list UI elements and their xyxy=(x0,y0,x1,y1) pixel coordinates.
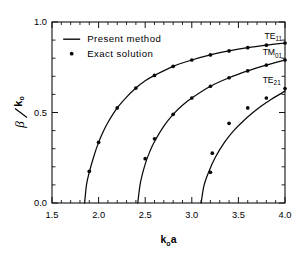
data-point-te11-exact xyxy=(246,46,250,50)
data-point-te21-exact xyxy=(210,151,214,155)
y-tick-label: 0.5 xyxy=(34,108,47,118)
data-point-tm01-exact xyxy=(246,69,250,73)
legend-dot-marker xyxy=(70,52,74,56)
te11-label-subscript: 11 xyxy=(275,35,282,42)
data-point-te11-exact xyxy=(87,169,91,173)
x-tick-label: 3.5 xyxy=(232,210,245,220)
y-tick-label: 0.0 xyxy=(34,198,47,208)
te11-label: TE11 xyxy=(264,31,282,42)
te21-label-subscript: 21 xyxy=(274,79,282,86)
data-point-te11-exact xyxy=(171,64,175,68)
data-point-te21-exact xyxy=(209,170,213,174)
curve-te11 xyxy=(85,43,285,203)
chart-canvas: 1.52.02.53.03.54.00.00.51.0TE11TM01TE21P… xyxy=(0,0,305,254)
x-axis-label-tail: a xyxy=(171,234,177,245)
data-point-te11-exact xyxy=(134,86,138,90)
data-point-te21-exact xyxy=(227,122,231,126)
data-point-te11-exact xyxy=(153,74,157,78)
data-point-te11-exact xyxy=(265,43,269,47)
data-point-tm01-exact xyxy=(153,137,157,141)
data-point-te11-exact xyxy=(115,106,119,110)
data-point-tm01-exact xyxy=(209,84,213,88)
legend-label-present-method: Present method xyxy=(87,33,161,44)
curve-te21 xyxy=(201,91,285,203)
data-point-te11-exact xyxy=(190,58,194,62)
y-axis-label-k-subscript: o xyxy=(18,96,25,100)
y-axis-label-beta: β xyxy=(12,121,27,129)
y-axis-label: βko xyxy=(12,96,27,128)
x-tick-label: 3.0 xyxy=(185,210,198,220)
data-point-te11-exact xyxy=(283,41,287,45)
data-point-tm01-exact xyxy=(143,157,147,161)
data-point-te21-exact xyxy=(283,87,287,91)
tm01-label: TM01 xyxy=(263,47,283,58)
legend-label-exact-solution: Exact solution xyxy=(87,48,153,59)
dispersion-chart-figure: 1.52.02.53.03.54.00.00.51.0TE11TM01TE21P… xyxy=(0,0,305,254)
data-point-tm01-exact xyxy=(171,112,175,116)
y-tick-label: 1.0 xyxy=(34,17,47,27)
x-tick-label: 2.0 xyxy=(92,210,105,220)
x-tick-label: 2.5 xyxy=(139,210,152,220)
data-point-te21-exact xyxy=(265,96,269,100)
data-point-te11-exact xyxy=(227,49,231,53)
data-point-te11-exact xyxy=(209,53,213,57)
y-axis-label-divider xyxy=(15,109,27,118)
x-axis-label: koa xyxy=(161,234,177,247)
y-axis-label-k: ko xyxy=(12,96,25,106)
data-point-tm01-exact xyxy=(190,96,194,100)
data-point-tm01-exact xyxy=(265,63,269,67)
data-point-te11-exact xyxy=(97,141,101,145)
tm01-label-subscript: 01 xyxy=(275,52,283,59)
data-point-tm01-exact xyxy=(283,58,287,62)
data-point-tm01-exact xyxy=(227,76,231,80)
te21-label: TE21 xyxy=(263,75,282,86)
data-point-te21-exact xyxy=(246,106,250,110)
x-tick-label: 1.5 xyxy=(46,210,59,220)
x-tick-label: 4.0 xyxy=(279,210,292,220)
